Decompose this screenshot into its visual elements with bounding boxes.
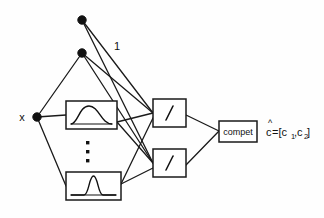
edge-div1-to-compet (186, 115, 219, 131)
input-label-x: x (19, 111, 25, 123)
edge-group (37, 20, 219, 186)
compet-box[interactable]: compet (219, 121, 257, 142)
edge-x-to-rbfn (37, 117, 66, 186)
bias-node-second[interactable] (78, 49, 86, 57)
edge-rbfn-to-div2 (121, 168, 153, 184)
bias-label-one: 1 (114, 40, 120, 52)
edge-div2-to-compet (186, 131, 219, 165)
diagram-canvas: compet x 1 ^ c =[c 1 ,c 2 ] (0, 0, 324, 218)
output-close-bracket: ] (307, 126, 310, 138)
compet-box-label: compet (223, 127, 253, 137)
gaussian-box-top[interactable] (66, 101, 117, 129)
edge-bias1-to-div1 (82, 20, 153, 113)
edge-rbf1-to-div1 (117, 113, 153, 122)
output-equals-bracket: =[c (272, 126, 287, 138)
ellipsis-icon (86, 141, 89, 162)
edge-rbfn-to-div1 (121, 118, 153, 184)
output-comma-c: ,c (294, 126, 303, 138)
gaussian-box-top-frame (66, 101, 117, 129)
ellipsis-dot-3 (86, 159, 89, 162)
network-diagram-svg: compet x 1 ^ c =[c 1 ,c 2 ] (0, 0, 324, 218)
gaussian-box-bottom[interactable] (66, 172, 121, 200)
divide-box-bottom[interactable] (153, 149, 186, 177)
input-node-x[interactable] (33, 113, 41, 121)
divide-box-top[interactable] (153, 99, 186, 127)
output-label: ^ c =[c 1 ,c 2 ] (266, 118, 310, 141)
bias-node-top[interactable] (78, 16, 86, 24)
ellipsis-dot-2 (86, 150, 89, 153)
ellipsis-dot-1 (86, 141, 89, 144)
